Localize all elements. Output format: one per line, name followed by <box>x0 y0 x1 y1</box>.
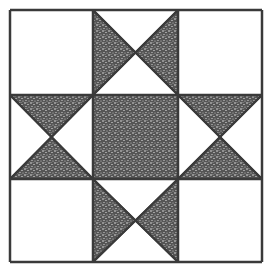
shaded-triangle-right <box>136 10 179 95</box>
cell-r1-c1-solid <box>93 95 178 179</box>
shaded-triangle-left <box>93 10 136 95</box>
shaded-triangle-right <box>136 179 179 262</box>
cell-r0-c1-hourglass-vertical <box>93 10 178 95</box>
shaded-triangle-left <box>93 179 136 262</box>
quilt-block-diagram <box>0 0 272 277</box>
shaded-triangle-bottom <box>10 137 93 179</box>
cell-r1-c0-hourglass-horizontal <box>10 95 93 179</box>
shaded-triangle-top <box>178 95 262 137</box>
center-square-shaded <box>93 95 178 179</box>
cells-layer <box>10 10 262 262</box>
shaded-triangle-top <box>10 95 93 137</box>
cell-r1-c2-hourglass-horizontal <box>178 95 262 179</box>
cell-r2-c1-hourglass-vertical <box>93 179 178 262</box>
shaded-triangle-bottom <box>178 137 262 179</box>
